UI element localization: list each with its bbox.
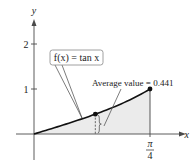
function-callout-pointer bbox=[55, 65, 82, 118]
average-value-label: Average value = 0.441 bbox=[92, 78, 173, 88]
average-point-dot bbox=[93, 112, 98, 117]
y-tick-label-2: 2 bbox=[24, 39, 29, 50]
function-label: f(x) = tan x bbox=[54, 52, 99, 64]
chart-svg: x y 12 π4 f(x) = tan x Average value = 0… bbox=[0, 0, 191, 166]
x-tick-label-numerator: π bbox=[147, 138, 153, 149]
shaded-area bbox=[34, 89, 150, 134]
y-axis-arrow-icon bbox=[32, 19, 37, 26]
x-axis-label: x bbox=[184, 129, 190, 140]
y-axis-label: y bbox=[31, 5, 37, 16]
y-tick-label-1: 1 bbox=[24, 84, 29, 95]
x-tick-label-denominator: 4 bbox=[148, 150, 153, 161]
